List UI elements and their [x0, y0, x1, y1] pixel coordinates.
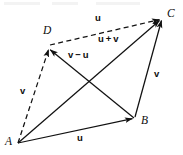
edge-BD-vector-v-minus-u: [50, 50, 134, 118]
scan-artifact: [96, 2, 140, 5]
edge-label-v-left: v: [20, 86, 25, 96]
vector-diagram: A B C D u u v v u + v v − u: [0, 0, 183, 155]
vertex-label-B: B: [141, 115, 148, 127]
expr-v-minus-u-text: v − u: [68, 49, 88, 60]
vertex-label-C: C: [167, 8, 175, 20]
vertex-label-D: D: [43, 25, 51, 37]
vertex-label-A: A: [5, 136, 12, 148]
edge-label-u-plus-v: u + v: [98, 34, 118, 44]
edge-label-u-top: u: [95, 13, 101, 23]
edge-label-u-bottom: u: [77, 133, 83, 143]
expr-u-plus-v-text: u + v: [98, 33, 118, 44]
edge-label-v-minus-u: v − u: [68, 50, 88, 60]
edge-label-v-right: v: [154, 69, 159, 79]
scan-artifact: [52, 2, 78, 5]
scan-artifact: [4, 2, 40, 5]
edge-AB-vector-u: [18, 119, 133, 143]
